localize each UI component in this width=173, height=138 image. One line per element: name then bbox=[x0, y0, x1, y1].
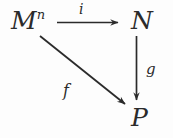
commutative-diagram: Mn N P i g f bbox=[0, 0, 173, 138]
arrow-label-g: g bbox=[146, 62, 156, 77]
node-n: N bbox=[131, 8, 153, 33]
node-m-base: M bbox=[11, 6, 37, 35]
arrow-label-i: i bbox=[79, 2, 83, 16]
node-p: P bbox=[131, 105, 148, 130]
node-n-base: N bbox=[131, 6, 153, 35]
arrow-label-f: f bbox=[63, 83, 69, 99]
arrow-f bbox=[40, 36, 125, 104]
node-m: Mn bbox=[11, 8, 45, 33]
node-m-superscript: n bbox=[37, 7, 46, 22]
node-p-base: P bbox=[131, 103, 148, 132]
